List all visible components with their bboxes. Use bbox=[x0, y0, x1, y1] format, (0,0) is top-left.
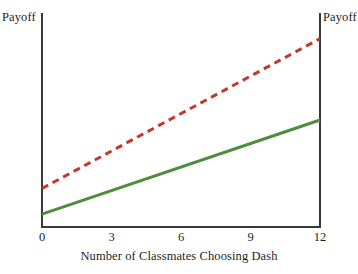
x-tick-label: 9 bbox=[236, 231, 266, 244]
x-axis-tick-labels: 036912 bbox=[0, 231, 358, 249]
solid-green-line bbox=[42, 120, 320, 214]
x-axis-title: Number of Classmates Choosing Dash bbox=[0, 250, 358, 263]
x-tick-label: 3 bbox=[97, 231, 127, 244]
payoff-chart-figure: Payoff Payoff 036912 Number of Classmate… bbox=[0, 0, 358, 274]
x-tick-label: 12 bbox=[305, 231, 335, 244]
x-tick-label: 0 bbox=[27, 231, 57, 244]
x-tick-label: 6 bbox=[166, 231, 196, 244]
